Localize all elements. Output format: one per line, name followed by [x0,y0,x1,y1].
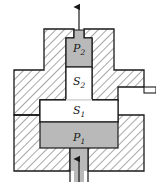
pressure-intensifier-diagram: P2 S2 S1 [0,0,156,185]
void-s2: S2 [66,67,92,100]
void-s1: S1 [40,100,118,122]
side-port-right [144,87,156,93]
diagram-canvas: P2 S2 S1 [0,0,156,185]
